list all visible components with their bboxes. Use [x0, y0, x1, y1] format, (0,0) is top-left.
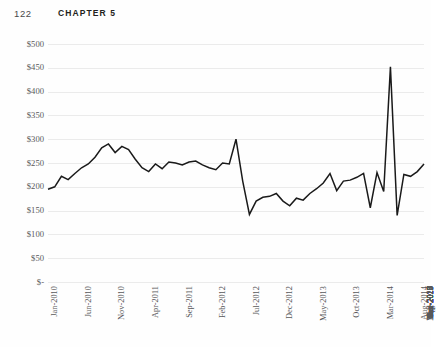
y-axis-tick-label: $350	[27, 111, 44, 120]
line-chart-figure: $500$450$400$350$300$250$200$150$100$50$…	[0, 30, 431, 347]
y-axis-tick-label: $450	[27, 63, 44, 72]
y-axis-tick-label: $400	[27, 87, 44, 96]
x-axis-tick-label: May-2013	[320, 286, 328, 321]
x-axis-tick-label: Oct-2013	[353, 286, 361, 318]
x-axis-tick-label: Apr-2011	[152, 286, 160, 318]
y-axis-tick-label: $200	[27, 182, 44, 191]
gridline	[48, 282, 424, 283]
x-axis-tick-label: Dec-2012	[286, 286, 294, 319]
page-number: 122	[14, 8, 32, 19]
x-axis-tick-label: Mar-2014	[387, 286, 395, 319]
x-axis-tick-label: Feb-2012	[219, 286, 227, 318]
plot-area	[48, 44, 424, 282]
x-axis-tick-label: Jul-2012	[253, 286, 261, 315]
y-axis-tick-label: $300	[27, 135, 44, 144]
price-series-line	[48, 67, 424, 216]
y-axis-tick-label: $-	[37, 278, 44, 287]
y-axis-tick-label: $100	[27, 230, 44, 239]
chapter-label: CHAPTER 5	[58, 8, 116, 18]
x-axis-tick-label: Jun-2010	[85, 286, 93, 317]
y-axis-tick-label: $250	[27, 159, 44, 168]
x-axis-tick-label: Sep-2011	[186, 286, 194, 318]
series-layer	[48, 44, 424, 282]
x-axis-tick-label: Jun-2020	[427, 286, 435, 317]
x-axis-tick-labels: Jan-2010Jun-2010Nov-2010Apr-2011Sep-2011…	[48, 286, 424, 346]
y-axis-tick-label: $500	[27, 40, 44, 49]
running-head: 122 CHAPTER 5	[0, 0, 431, 30]
y-axis-tick-labels: $500$450$400$350$300$250$200$150$100$50$…	[0, 44, 44, 282]
x-axis-tick-label: Nov-2010	[118, 286, 126, 320]
x-axis-tick-label: Jan-2010	[51, 286, 59, 317]
y-axis-tick-label: $50	[31, 254, 44, 263]
y-axis-tick-label: $150	[27, 206, 44, 215]
